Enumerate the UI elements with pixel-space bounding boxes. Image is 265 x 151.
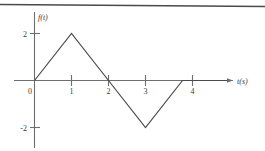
x-axis-label: t(s) bbox=[237, 77, 248, 86]
x-tick-label-2: 2 bbox=[107, 87, 111, 96]
x-tick-label-3: 3 bbox=[144, 87, 148, 96]
top-rule bbox=[0, 5, 265, 7]
origin-label: 0 bbox=[28, 87, 32, 96]
y-tick-label-2: 2 bbox=[23, 30, 27, 39]
y-tick-label-minus-2: -2 bbox=[20, 124, 27, 133]
triangular-waveform-figure: f(t) t(s) 2 -2 0 1 2 3 4 bbox=[0, 0, 265, 151]
x-tick-label-1: 1 bbox=[70, 87, 74, 96]
x-tick-label-4: 4 bbox=[191, 87, 195, 96]
x-axis-arrow-icon bbox=[227, 78, 233, 83]
plot-canvas: f(t) t(s) 2 -2 0 1 2 3 4 bbox=[0, 0, 265, 151]
y-axis-label: f(t) bbox=[38, 13, 48, 22]
